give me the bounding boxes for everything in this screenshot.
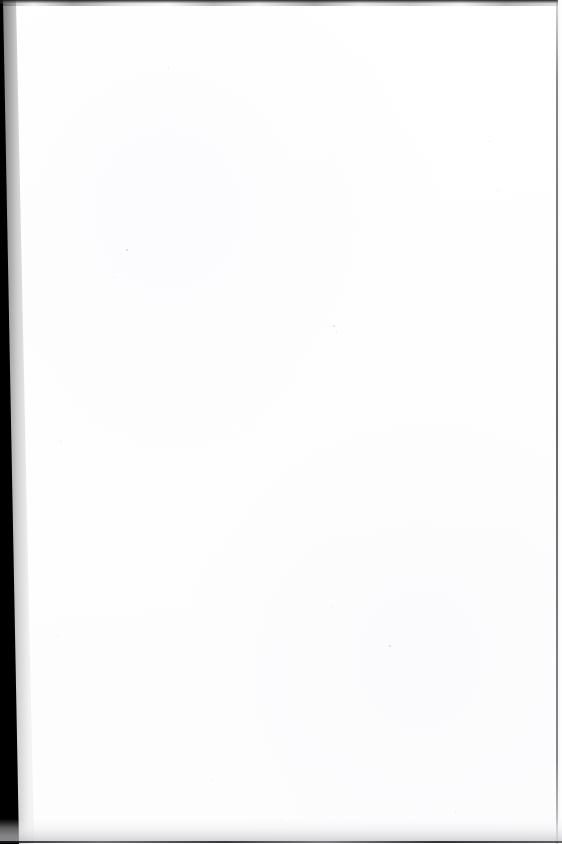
paper-sheet <box>0 0 562 844</box>
paper-tone-gradient <box>0 0 562 844</box>
scanned-page-canvas <box>0 0 562 844</box>
